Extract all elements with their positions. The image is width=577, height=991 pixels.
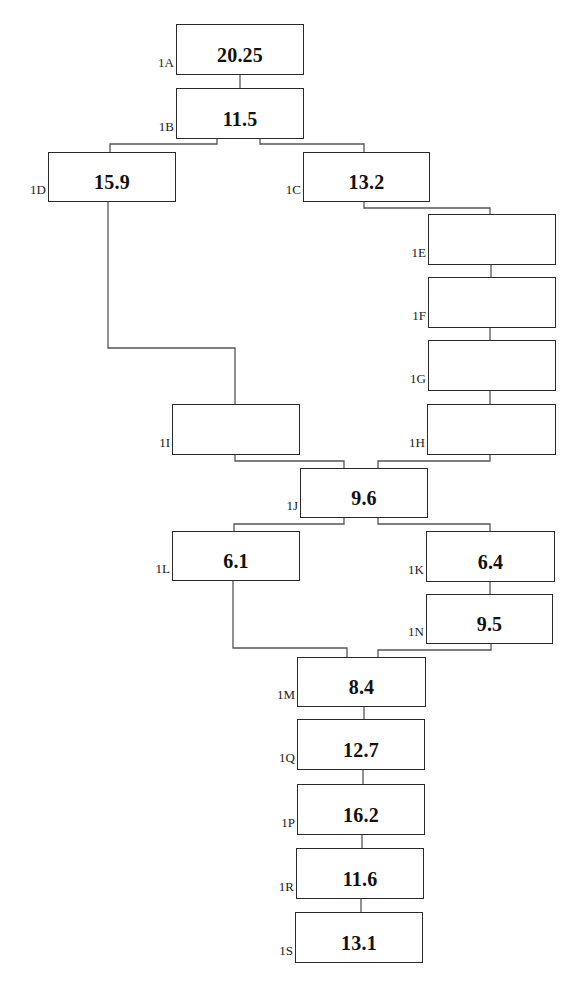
node-1b: 11.5 bbox=[176, 88, 304, 139]
node-1j: 9.6 bbox=[300, 468, 428, 518]
node-label: 1A bbox=[138, 55, 174, 71]
node-value: 9.6 bbox=[301, 487, 427, 510]
node-1k: 6.4 bbox=[426, 531, 555, 582]
node-1r: 11.6 bbox=[296, 848, 424, 899]
node-1f bbox=[428, 277, 556, 328]
node-value: 13.1 bbox=[296, 932, 422, 955]
node-label: 1D bbox=[10, 182, 46, 198]
node-1l: 6.1 bbox=[172, 531, 300, 581]
node-value: 6.4 bbox=[427, 551, 554, 574]
node-label: 1E bbox=[390, 245, 426, 261]
node-1e bbox=[428, 214, 556, 265]
node-value: 13.2 bbox=[304, 171, 429, 194]
node-label: 1G bbox=[390, 371, 426, 387]
node-label: 1J bbox=[262, 498, 298, 514]
node-label: 1B bbox=[138, 119, 174, 135]
node-label: 1M bbox=[259, 687, 295, 703]
node-1h bbox=[427, 404, 556, 455]
node-label: 1K bbox=[388, 562, 424, 578]
node-label: 1R bbox=[258, 879, 294, 895]
node-value: 9.5 bbox=[427, 613, 552, 636]
node-value: 20.25 bbox=[177, 44, 303, 67]
node-value: 15.9 bbox=[49, 171, 175, 194]
node-value: 11.5 bbox=[177, 108, 303, 131]
node-value: 12.7 bbox=[298, 739, 424, 762]
node-value: 11.6 bbox=[297, 868, 423, 891]
node-1i bbox=[172, 404, 300, 455]
node-label: 1H bbox=[389, 435, 425, 451]
node-1n: 9.5 bbox=[426, 594, 553, 644]
node-label: 1C bbox=[265, 182, 301, 198]
node-1p: 16.2 bbox=[297, 784, 425, 835]
node-1d: 15.9 bbox=[48, 152, 176, 202]
node-label: 1N bbox=[388, 624, 424, 640]
node-label: 1L bbox=[134, 561, 170, 577]
node-1q: 12.7 bbox=[297, 719, 425, 770]
node-1g bbox=[428, 340, 556, 391]
node-label: 1P bbox=[259, 815, 295, 831]
connector-lines bbox=[0, 0, 577, 991]
node-1m: 8.4 bbox=[297, 657, 426, 707]
node-1c: 13.2 bbox=[303, 152, 430, 202]
node-1a: 20.25 bbox=[176, 24, 304, 75]
node-label: 1S bbox=[257, 943, 293, 959]
node-value: 16.2 bbox=[298, 804, 424, 827]
node-1s: 13.1 bbox=[295, 912, 423, 963]
node-value: 6.1 bbox=[173, 550, 299, 573]
node-label: 1I bbox=[134, 435, 170, 451]
node-label: 1Q bbox=[259, 750, 295, 766]
node-value: 8.4 bbox=[298, 676, 425, 699]
node-label: 1F bbox=[390, 308, 426, 324]
